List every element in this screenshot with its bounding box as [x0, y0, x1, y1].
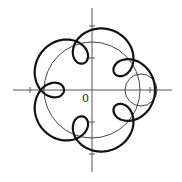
- axes: [13, 8, 172, 172]
- origin-label: 0: [82, 92, 89, 105]
- plot-canvas: [0, 0, 182, 182]
- diagram: 0: [0, 0, 182, 182]
